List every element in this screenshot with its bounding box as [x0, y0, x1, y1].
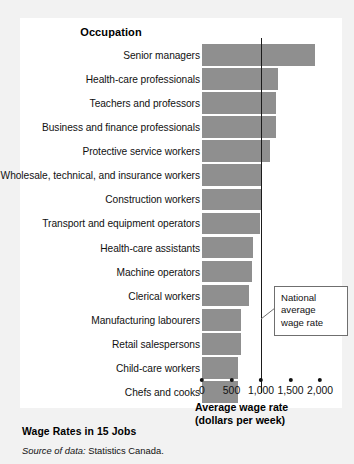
- axis-tick-label: 500: [223, 385, 240, 396]
- bar-category-label: Teachers and professors: [90, 97, 200, 108]
- bar-category-label: Health-care assistants: [100, 242, 200, 253]
- bar: [202, 261, 252, 283]
- bar-row: Teachers and professors: [20, 92, 342, 114]
- bar: [202, 237, 253, 259]
- bar-category-label: Construction workers: [105, 194, 200, 205]
- bar: [202, 189, 261, 211]
- axis-title-line-1: Average wage rate: [195, 401, 288, 414]
- national-average-callout: National average wage rate: [274, 286, 348, 336]
- bar-row: Health-care professionals: [20, 68, 342, 90]
- bar-row: Senior managers: [20, 44, 342, 66]
- bar: [202, 333, 241, 355]
- value-axis: Average wage rate (dollars per week) 050…: [20, 378, 342, 424]
- axis-title: Average wage rate (dollars per week): [195, 401, 288, 426]
- bar: [202, 213, 260, 235]
- figure-caption: Wage Rates in 15 Jobs Source of data: St…: [22, 426, 322, 456]
- bar: [202, 285, 249, 307]
- occupation-column-heading: Occupation: [20, 26, 202, 38]
- bar-category-label: Business and finance professionals: [42, 122, 200, 133]
- bar-row: Protective service workers: [20, 140, 342, 162]
- bar: [202, 357, 238, 379]
- axis-tick-dot: [229, 378, 233, 382]
- axis-tick-label: 1,000: [248, 385, 274, 396]
- bar-row: Construction workers: [20, 189, 342, 211]
- bar-category-label: Health-care professionals: [86, 73, 200, 84]
- bar-category-label: Retail salespersons: [112, 338, 200, 349]
- axis-title-line-2: (dollars per week): [195, 414, 288, 427]
- axis-tick-dot: [318, 378, 322, 382]
- national-average-reference-line: [261, 38, 263, 393]
- bar-row: Transport and equipment operators: [20, 213, 342, 235]
- bar-category-label: Clerical workers: [128, 290, 200, 301]
- bar-row: Wholesale, technical, and insurance work…: [20, 164, 342, 186]
- source-label: Source of data:: [22, 445, 86, 456]
- bar: [202, 164, 262, 186]
- bar-row: Retail salespersons: [20, 333, 342, 355]
- bar: [202, 44, 315, 66]
- source-value: Statistics Canada.: [88, 445, 164, 456]
- bar-category-label: Senior managers: [123, 49, 200, 60]
- bar-category-label: Wholesale, technical, and insurance work…: [1, 170, 200, 181]
- bar: [202, 92, 276, 114]
- axis-tick-label: 2,000: [307, 385, 333, 396]
- bar-category-label: Transport and equipment operators: [42, 218, 200, 229]
- bar-row: Child-care workers: [20, 357, 342, 379]
- bar-category-label: Protective service workers: [82, 146, 200, 157]
- figure-title: Wage Rates in 15 Jobs: [22, 426, 322, 437]
- callout-leader-line: [261, 308, 275, 320]
- bar: [202, 116, 276, 138]
- axis-tick-label: 1,500: [277, 385, 303, 396]
- axis-tick-dot: [200, 378, 204, 382]
- axis-tick-dot: [288, 378, 292, 382]
- axis-tick-dot: [259, 378, 263, 382]
- bar-category-label: Machine operators: [116, 266, 200, 277]
- bar-category-label: Manufacturing labourers: [91, 314, 200, 325]
- bar-row: Machine operators: [20, 261, 342, 283]
- axis-tick-label: 0: [199, 385, 205, 396]
- source-note: Source of data: Statistics Canada.: [22, 445, 322, 456]
- bar-row: Health-care assistants: [20, 237, 342, 259]
- bar: [202, 309, 241, 331]
- bar: [202, 68, 278, 90]
- bar-row: Business and finance professionals: [20, 116, 342, 138]
- bar-category-label: Child-care workers: [116, 362, 200, 373]
- chart-panel: Occupation Senior managersHealth-care pr…: [20, 18, 342, 408]
